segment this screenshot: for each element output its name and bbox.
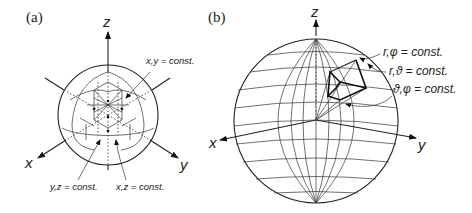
sphere-wireframe: [234, 39, 398, 203]
z-axis-b-label: z: [310, 3, 319, 20]
panel-b-label: (b): [208, 9, 226, 26]
y-axis: [150, 140, 178, 158]
annotation-xy-const: x,y = const.: [145, 55, 194, 66]
panel-b: (b) z x y: [208, 3, 456, 203]
annotation-r-phi-const: r,φ = const.: [383, 45, 443, 59]
x-axis-b-label: x: [208, 134, 217, 151]
x-axis: [38, 140, 66, 158]
annotation-theta-phi-const: ϑ,φ = const.: [393, 82, 456, 96]
annotation-yz-const: y,z = const.: [49, 181, 98, 192]
annotation-xz-const: x,z = const.: [115, 181, 164, 192]
y-axis-b-label: y: [417, 136, 427, 153]
y-axis-b: [316, 120, 416, 138]
annotation-r-theta-const: r,ϑ = const.: [389, 64, 448, 78]
y-axis-label: y: [179, 156, 189, 173]
panel-a: (a) z x y: [24, 9, 194, 192]
x-axis-label: x: [24, 154, 33, 171]
z-axis-label: z: [102, 13, 111, 30]
panel-a-label: (a): [26, 9, 43, 26]
